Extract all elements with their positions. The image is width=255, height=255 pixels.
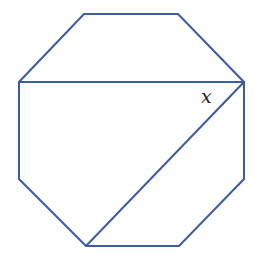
slanted-diagonal <box>86 82 244 246</box>
octagon-outline <box>19 14 244 246</box>
octagon-diagram: x <box>0 0 255 255</box>
diagram-svg: x <box>0 0 255 255</box>
angle-label-x: x <box>201 85 212 107</box>
